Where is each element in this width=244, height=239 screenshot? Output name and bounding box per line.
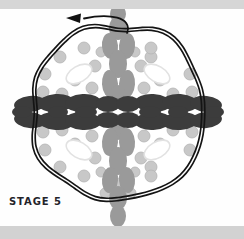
dark-blob [139,106,161,118]
dark-blob [12,106,32,118]
light-dot [39,144,51,156]
dark-blob [48,106,68,118]
medium-blob [110,205,126,227]
light-dot [78,42,90,54]
light-dot [86,82,98,94]
light-dot [138,130,150,142]
dark-blob [116,96,140,112]
dark-blob [204,106,224,118]
dark-blob [116,112,140,128]
light-dot [138,82,150,94]
arrow-head [66,14,81,24]
stage-label: STAGE 5 [9,197,62,207]
light-dot [145,42,157,54]
light-dot [78,170,90,182]
dark-blob [168,106,188,118]
light-dot [145,170,157,182]
light-dot [86,130,98,142]
figure-page: STAGE 5 [0,0,244,239]
dark-blob [75,106,97,118]
